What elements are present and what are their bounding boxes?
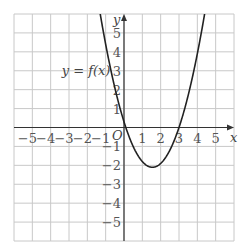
origin-label: O [112, 128, 123, 143]
curve-label: y = f(x) [61, 63, 111, 78]
graph-figure: −5−4−3−2−112345−5−4−3−2−112345xyOy = f(x… [0, 0, 244, 247]
x-tick-label: 4 [193, 131, 201, 146]
y-tick-label: 5 [113, 26, 121, 41]
function-graph: −5−4−3−2−112345−5−4−3−2−112345xyOy = f(x… [0, 0, 244, 247]
x-tick-label: 5 [212, 131, 220, 146]
x-tick-label: −5 [18, 131, 37, 146]
y-tick-label: −4 [102, 196, 121, 211]
x-axis-label: x [230, 130, 238, 145]
y-axis-arrow-icon [121, 14, 127, 21]
x-tick-label: 2 [157, 131, 165, 146]
x-tick-label: 3 [175, 131, 183, 146]
y-tick-label: −3 [102, 177, 121, 192]
y-tick-label: −5 [102, 215, 121, 230]
x-tick-label: −4 [36, 131, 55, 146]
y-tick-label: 3 [113, 64, 121, 79]
y-tick-label: −2 [102, 158, 121, 173]
x-tick-label: 1 [138, 131, 146, 146]
x-tick-label: −2 [73, 131, 92, 146]
y-axis-label: y [112, 12, 121, 27]
y-tick-label: 4 [113, 45, 121, 60]
x-tick-label: −3 [54, 131, 73, 146]
